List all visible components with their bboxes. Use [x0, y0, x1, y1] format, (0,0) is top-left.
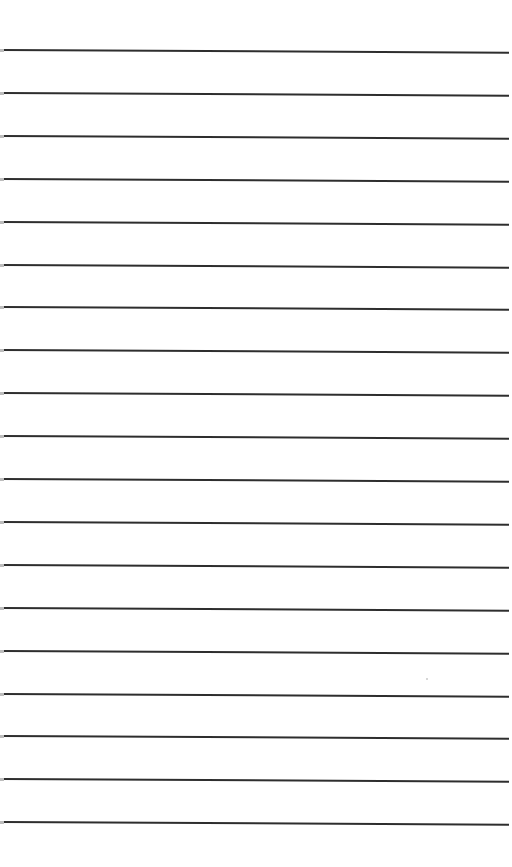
line-edge-mark — [0, 735, 4, 738]
ruled-line — [3, 264, 509, 269]
ruled-line — [3, 435, 509, 440]
ruled-line — [3, 607, 509, 612]
line-edge-mark — [0, 264, 4, 267]
line-edge-mark — [0, 349, 4, 352]
line-edge-mark — [0, 135, 4, 138]
ruled-line — [3, 349, 509, 354]
line-edge-mark — [0, 92, 4, 95]
lined-paper-sheet — [0, 0, 512, 867]
ruled-line — [3, 650, 509, 655]
line-edge-mark — [0, 49, 4, 52]
ruled-line — [3, 49, 509, 54]
line-edge-mark — [0, 564, 4, 567]
line-edge-mark — [0, 306, 4, 309]
ruled-line — [3, 306, 509, 311]
line-edge-mark — [0, 478, 4, 481]
line-edge-mark — [0, 778, 4, 781]
ruled-line — [3, 778, 509, 783]
ruled-line — [3, 821, 509, 826]
line-edge-mark — [0, 821, 4, 824]
ruled-line — [3, 221, 509, 226]
paper-speck — [426, 678, 428, 680]
line-edge-mark — [0, 178, 4, 181]
ruled-line — [3, 693, 509, 698]
line-edge-mark — [0, 650, 4, 653]
line-edge-mark — [0, 435, 4, 438]
line-edge-mark — [0, 392, 4, 395]
ruled-line — [3, 564, 509, 569]
line-edge-mark — [0, 693, 4, 696]
ruled-line — [3, 521, 509, 526]
ruled-line — [3, 735, 509, 740]
line-edge-mark — [0, 521, 4, 524]
ruled-line — [3, 392, 509, 397]
ruled-line — [3, 135, 509, 140]
line-edge-mark — [0, 607, 4, 610]
ruled-line — [3, 92, 509, 97]
ruled-line — [3, 478, 509, 483]
line-edge-mark — [0, 221, 4, 224]
ruled-line — [3, 178, 509, 183]
